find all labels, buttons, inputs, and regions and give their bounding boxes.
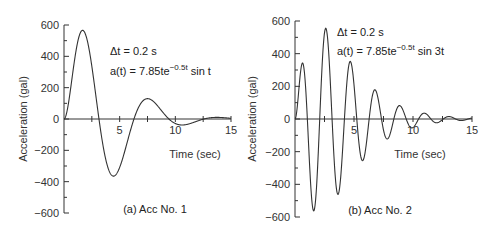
y-tick-label: 0 — [53, 113, 59, 125]
y-tick-label: −400 — [265, 178, 290, 190]
x-tick-label: 10 — [407, 124, 419, 136]
formula-exp-a: −0.5t — [170, 63, 189, 72]
x-tick-labels-a: 51015 — [117, 124, 238, 136]
y-tick-label: −200 — [34, 144, 59, 156]
formula-exp-b: −0.5t — [397, 43, 416, 52]
y-tick-label: 0 — [284, 113, 290, 125]
y-tick-label: 600 — [41, 19, 59, 31]
y-tick-label: −200 — [265, 146, 290, 158]
y-tick-labels-a: 6004002000−200−400−600 — [34, 19, 59, 219]
chart-panel-a: Acceleration (gal) 6004002000−200−400−60… — [17, 19, 237, 219]
figure: Acceleration (gal) 6004002000−200−400−60… — [0, 0, 491, 232]
x-axis-title-a: Time (sec) — [169, 148, 221, 160]
y-tick-label: 600 — [272, 15, 290, 27]
dt-annotation-a: Δt = 0.2 s — [110, 45, 157, 57]
dt-annotation-b: Δt = 0.2 s — [337, 26, 384, 38]
y-tick-label: −600 — [34, 207, 59, 219]
x-tick-label: 15 — [466, 124, 478, 136]
formula-prefix-a: a(t) = 7.85te — [110, 65, 170, 77]
x-tick-label: 5 — [117, 124, 123, 136]
formula-annotation-a: a(t) = 7.85te−0.5t sin t — [110, 63, 211, 77]
x-tick-label: 5 — [351, 124, 357, 136]
y-axis-title-b: Acceleration (gal) — [246, 76, 258, 162]
formula-prefix-b: a(t) = 7.85te — [337, 45, 397, 57]
y-tick-label: 200 — [41, 82, 59, 94]
y-tick-label: 200 — [272, 80, 290, 92]
y-tick-label: 400 — [272, 48, 290, 60]
x-tick-labels-b: 51015 — [351, 124, 478, 136]
x-tick-label: 15 — [225, 124, 237, 136]
y-tick-label: −400 — [34, 176, 59, 188]
x-axis-title-b: Time (sec) — [394, 148, 446, 160]
y-axis-title-a: Acceleration (gal) — [17, 76, 29, 162]
y-tick-labels-b: 6004002000−200−400−600 — [265, 15, 290, 223]
y-tick-label: 400 — [41, 50, 59, 62]
caption-b: (b) Acc No. 2 — [348, 204, 412, 216]
x-tick-label: 10 — [169, 124, 181, 136]
y-tick-label: −600 — [265, 211, 290, 223]
formula-suffix-b: sin 3t — [415, 45, 444, 57]
formula-suffix-a: sin t — [188, 65, 211, 77]
caption-a: (a) Acc No. 1 — [123, 203, 187, 215]
chart-panel-b: Acceleration (gal) 6004002000−200−400−60… — [246, 15, 478, 223]
formula-annotation-b: a(t) = 7.85te−0.5t sin 3t — [337, 43, 444, 57]
